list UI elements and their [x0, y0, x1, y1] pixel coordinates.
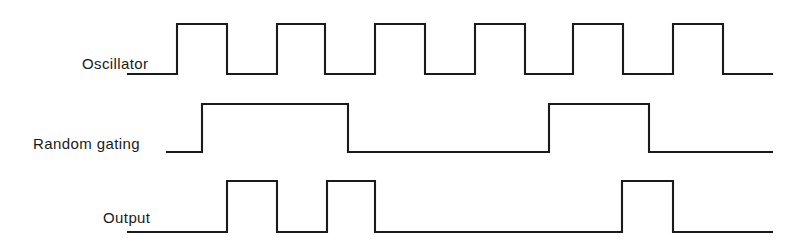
signal-label-oscillator: Oscillator: [82, 56, 149, 71]
timing-diagram-figure: Oscillator Random gating Output: [0, 0, 803, 252]
signal-label-random-gating: Random gating: [33, 136, 140, 151]
oscillator-waveform-trace: [128, 24, 772, 74]
random-gating-waveform-trace: [167, 104, 772, 152]
output-waveform-trace: [128, 181, 772, 232]
signal-label-output: Output: [103, 210, 150, 225]
